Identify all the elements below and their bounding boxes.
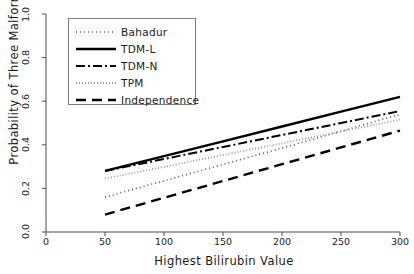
series-line-tpm — [105, 120, 400, 179]
legend-item-tdm-l: TDM-L — [69, 40, 197, 57]
series-line-tdm-n — [105, 111, 400, 171]
legend-item-bahadur: Bahadur — [69, 23, 197, 40]
legend-item-independence: Independence — [69, 91, 197, 108]
legend-label: Bahadur — [121, 26, 167, 38]
legend-label: TDM-L — [121, 43, 156, 55]
legend-item-tdm-n: TDM-N — [69, 57, 197, 74]
series-line-bahadur — [105, 114, 400, 197]
legend-swatch-tdm-n — [74, 59, 118, 73]
legend-label: Independence — [121, 94, 199, 106]
data-series-layer — [105, 97, 400, 215]
legend-item-tpm: TPM — [69, 74, 197, 91]
series-line-independence — [105, 131, 400, 215]
legend-swatch-bahadur — [74, 25, 118, 39]
legend: Bahadur TDM-L TDM-N TPM Independence — [68, 18, 196, 105]
legend-swatch-independence — [74, 93, 118, 107]
legend-label: TPM — [121, 77, 144, 89]
legend-label: TDM-N — [121, 60, 158, 72]
legend-swatch-tdm-l — [74, 42, 118, 56]
plot-area — [0, 0, 414, 274]
legend-swatch-tpm — [74, 76, 118, 90]
chart-figure: Probability of Three Malformations 1.0 0… — [0, 0, 414, 274]
